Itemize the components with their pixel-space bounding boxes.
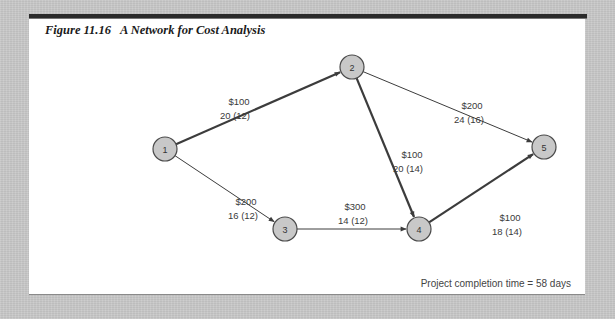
- edge-2-4: [357, 78, 414, 217]
- node-5: 5: [532, 135, 556, 159]
- edge-1-3: [175, 156, 274, 222]
- edge-label-3-4: $30014 (12): [338, 201, 368, 226]
- edge-cost-label: $100: [228, 96, 249, 107]
- edge-time-label: 16 (12): [228, 210, 258, 221]
- edge-cost-label: $300: [344, 201, 365, 212]
- network-diagram: $10020 (12)$20016 (12)$10020 (14)$20024 …: [0, 0, 615, 319]
- node-label: 3: [282, 225, 287, 235]
- nodes-layer: 12345: [153, 55, 556, 241]
- edge-time-label: 18 (14): [492, 226, 522, 237]
- edge-cost-label: $200: [461, 100, 482, 111]
- edge-2-5: [363, 72, 532, 142]
- edge-label-2-5: $20024 (16): [454, 100, 484, 125]
- node-4: 4: [407, 217, 431, 241]
- edge-cost-label: $200: [235, 196, 256, 207]
- node-2: 2: [340, 55, 364, 79]
- edge-time-label: 20 (12): [220, 110, 250, 121]
- edge-cost-label: $100: [499, 212, 520, 223]
- edge-time-label: 24 (16): [454, 114, 484, 125]
- edge-cost-label: $100: [401, 149, 422, 160]
- edge-time-label: 14 (12): [338, 215, 368, 226]
- node-label: 1: [162, 145, 167, 155]
- edge-label-2-4: $10020 (14): [393, 149, 423, 174]
- edge-label-4-5: $10018 (14): [492, 212, 522, 237]
- completion-time-text: Project completion time = 58 days: [421, 278, 571, 289]
- node-label: 5: [541, 143, 546, 153]
- node-label: 2: [349, 63, 354, 73]
- node-3: 3: [273, 217, 297, 241]
- node-1: 1: [153, 137, 177, 161]
- edge-label-1-2: $10020 (12): [220, 96, 250, 121]
- edge-1-2: [176, 72, 340, 144]
- edge-time-label: 20 (14): [393, 163, 423, 174]
- node-label: 4: [416, 225, 421, 235]
